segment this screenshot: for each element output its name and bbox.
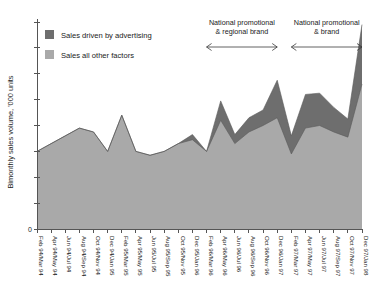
annotation-1: National promotional& regional brand bbox=[207, 18, 278, 51]
x-axis-label: Apr 94/May 94 bbox=[52, 236, 59, 276]
x-axis-label: Apr 95/May 95 bbox=[137, 236, 144, 276]
x-axis-label: Feb 94/Mar 94 bbox=[38, 236, 45, 276]
y-axis: 0 Bimonthly sales volume, '000 units bbox=[6, 19, 40, 233]
x-axis-label: Jun 95/Jul 95 bbox=[151, 236, 158, 273]
annotation-label-line2: & regional brand bbox=[216, 27, 269, 36]
x-axis-ticks bbox=[37, 229, 362, 233]
x-axis-label: Jun 97/Jul 97 bbox=[321, 236, 328, 273]
x-axis-tick-labels: Feb 94/Mar 94Apr 94/May 94Jun 94/Jul 94A… bbox=[38, 236, 370, 277]
legend-swatch-other-factors bbox=[45, 50, 54, 59]
x-axis-label: Oct 96/Nov 96 bbox=[264, 236, 271, 276]
x-axis-label: Oct 95/Nov 95 bbox=[180, 236, 187, 276]
x-axis-label: Feb 95/Mar 95 bbox=[123, 236, 130, 276]
x-axis: Feb 94/Mar 94Apr 94/May 94Jun 94/Jul 94A… bbox=[37, 229, 370, 277]
x-axis-label: Oct 94/Nov 94 bbox=[95, 236, 102, 276]
x-axis-label: Aug 95/Sep 95 bbox=[165, 236, 172, 277]
annotation-label-line2: & brand bbox=[314, 27, 339, 36]
x-axis-label: Feb 96/Mar 96 bbox=[208, 236, 215, 276]
x-axis-label: Dec 97/Jan 98 bbox=[363, 236, 370, 276]
area-chart: 0 Bimonthly sales volume, '000 units Feb… bbox=[0, 0, 374, 305]
x-axis-label: Dec 94/Jan 95 bbox=[109, 236, 116, 276]
x-axis-label: Apr 96/May 96 bbox=[222, 236, 229, 276]
x-axis-label: Apr 97/May 97 bbox=[307, 236, 314, 276]
legend: Sales driven by advertising Sales all ot… bbox=[45, 30, 152, 60]
annotation-2: National promotional& brand bbox=[291, 18, 362, 51]
legend-label-advertising: Sales driven by advertising bbox=[61, 31, 152, 40]
x-axis-label: Dec 95/Jan 96 bbox=[194, 236, 201, 276]
x-axis-label: Aug 94/Sep 94 bbox=[81, 236, 88, 277]
chart-container: 0 Bimonthly sales volume, '000 units Feb… bbox=[0, 0, 374, 305]
legend-swatch-advertising bbox=[45, 30, 54, 39]
x-axis-label: Oct 97/Nov 97 bbox=[349, 236, 356, 276]
annotation-group: National promotional& regional brandNati… bbox=[207, 18, 362, 51]
x-axis-label: Aug 96/Sep 96 bbox=[250, 236, 257, 277]
legend-label-other-factors: Sales all other factors bbox=[61, 51, 134, 60]
x-axis-label: Aug 97/Sep 97 bbox=[335, 236, 342, 277]
annotation-label-line1: National promotional bbox=[294, 18, 360, 27]
y-axis-title: Bimonthly sales volume, '000 units bbox=[6, 75, 15, 188]
y-axis-zero-label: 0 bbox=[28, 226, 32, 233]
x-axis-label: Feb 97/Mar 97 bbox=[293, 236, 300, 276]
x-axis-label: Jun 96/Jul 96 bbox=[236, 236, 243, 273]
x-axis-label: Jun 94/Jul 94 bbox=[66, 236, 73, 273]
annotation-label-line1: National promotional bbox=[209, 18, 275, 27]
x-axis-label: Dec 96/Jan 97 bbox=[278, 236, 285, 276]
